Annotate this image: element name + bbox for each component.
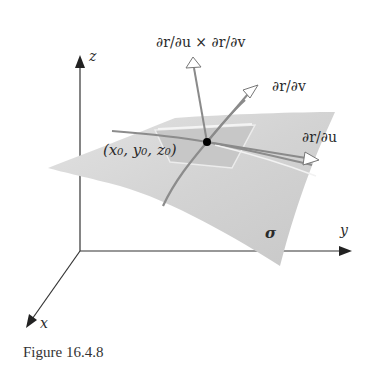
y-axis-arrow-icon — [339, 246, 352, 256]
z-axis-arrow-icon — [75, 55, 85, 68]
surface-diagram — [0, 0, 384, 376]
x-axis-arrow-icon — [26, 314, 37, 328]
r-u-vector-label: ∂r/∂u — [302, 129, 337, 145]
x-axis — [30, 251, 80, 322]
r-v-vector-label: ∂r/∂v — [272, 78, 306, 94]
y-axis-label: y — [340, 222, 348, 238]
x-axis-label: x — [40, 315, 48, 331]
normal-vector-label: ∂r/∂u × ∂r/∂v — [156, 34, 245, 50]
z-axis-label: z — [89, 48, 96, 64]
point-label: (x₀, y₀, z₀) — [103, 141, 177, 159]
figure-caption: Figure 16.4.8 — [23, 344, 103, 361]
normal-vector-arrowhead-icon — [186, 57, 201, 68]
point-x0-y0-z0 — [203, 138, 211, 146]
sigma-label: σ — [265, 224, 276, 242]
